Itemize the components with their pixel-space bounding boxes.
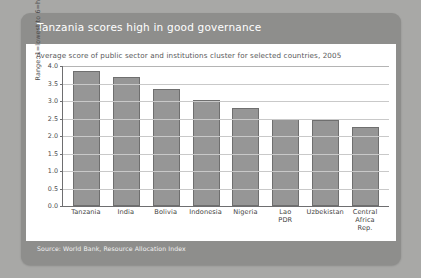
y-tick-label: 4.0: [36, 62, 58, 70]
bar: [312, 120, 339, 206]
card-title: Tanzania scores high in good governance: [37, 21, 261, 33]
y-tick-mark: [60, 154, 63, 155]
chart-subtitle: Average score of public sector and insti…: [36, 51, 341, 60]
y-tick-label: 3.5: [36, 80, 58, 88]
gridline: [63, 84, 389, 85]
y-tick-label: 1.0: [36, 167, 58, 175]
x-tick-label: Bolivia: [146, 208, 186, 233]
x-tick-label: Tanzania: [66, 208, 106, 233]
y-tick-label: 2.5: [36, 115, 58, 123]
y-tick-mark: [60, 206, 63, 207]
x-tick-label: LaoPDR: [265, 208, 305, 233]
y-tick-mark: [60, 136, 63, 137]
y-tick-label: 0.0: [36, 202, 58, 210]
screenshot-root: Tanzania scores high in good governance …: [0, 0, 421, 278]
y-tick-mark: [60, 119, 63, 120]
gridline: [63, 189, 389, 190]
y-tick-label: 1.5: [36, 150, 58, 158]
y-tick-mark: [60, 66, 63, 67]
y-tick-label: 0.5: [36, 185, 58, 193]
y-tick-mark: [60, 101, 63, 102]
x-tick-label: Indonesia: [186, 208, 226, 233]
grid-area: [62, 66, 389, 207]
y-tick-label: 3.0: [36, 97, 58, 105]
gridline: [63, 101, 389, 102]
gridline: [63, 66, 389, 67]
bar: [113, 77, 140, 207]
gridline: [63, 136, 389, 137]
x-tick-label: CentralAfricaRep.: [345, 208, 385, 233]
gridline: [63, 154, 389, 155]
bar: [272, 119, 299, 207]
x-tick-label: Uzbekistan: [305, 208, 345, 233]
gridline: [63, 119, 389, 120]
y-axis-title: Range: 1=lowest to 6=highest: [34, 0, 42, 84]
y-tick-mark: [60, 171, 63, 172]
x-axis-labels: TanzaniaIndiaBoliviaIndonesiaNigeriaLaoP…: [62, 208, 389, 233]
bar: [73, 71, 100, 206]
x-tick-label: India: [106, 208, 146, 233]
y-tick-label: 2.0: [36, 132, 58, 140]
x-tick-label: Nigeria: [226, 208, 266, 233]
bar: [232, 108, 259, 206]
plot-area: Range: 1=lowest to 6=highest 4.03.53.02.…: [36, 66, 389, 234]
gridline: [63, 171, 389, 172]
y-tick-mark: [60, 189, 63, 190]
chart-card: Tanzania scores high in good governance …: [21, 13, 401, 265]
bar: [352, 127, 379, 206]
y-tick-mark: [60, 84, 63, 85]
chart-panel: Average score of public sector and insti…: [26, 44, 396, 241]
source-note: Source: World Bank, Resource Allocation …: [37, 245, 186, 252]
